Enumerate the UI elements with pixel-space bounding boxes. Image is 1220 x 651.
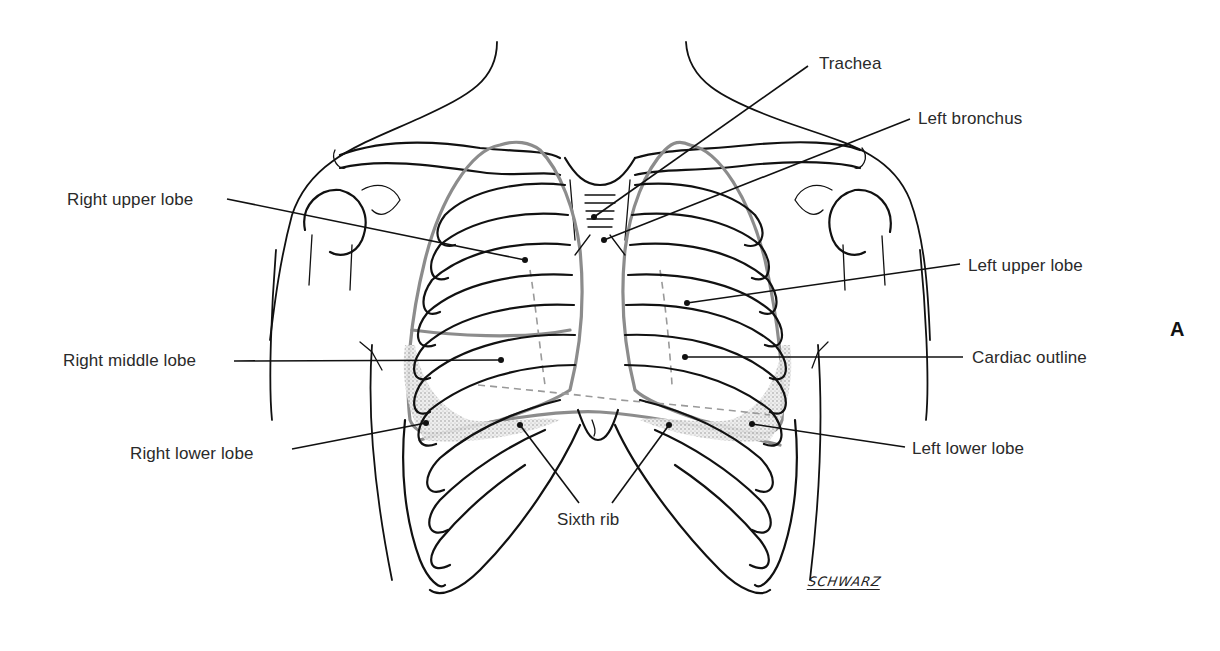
- shoulders: [304, 185, 891, 290]
- leader-right-middle-lobe: [234, 360, 501, 361]
- lung-outlines: [408, 142, 783, 445]
- trachea-rings: [575, 195, 625, 255]
- label-right-lower-lobe: Right lower lobe: [130, 445, 254, 462]
- label-right-middle-lobe: Right middle lobe: [63, 352, 196, 369]
- leader-sixth-rib-right: [520, 425, 579, 503]
- leader-left-upper-lobe: [687, 264, 960, 303]
- leader-right-upper-lobe: [227, 199, 525, 260]
- label-cardiac-outline: Cardiac outline: [972, 349, 1087, 366]
- artist-signature: SCHWARZ: [807, 575, 883, 590]
- label-left-upper-lobe: Left upper lobe: [968, 257, 1083, 274]
- chest-anatomy-figure: Trachea Left bronchus Right upper lobe L…: [0, 0, 1220, 651]
- leader-trachea: [594, 66, 808, 217]
- leader-lines: [227, 66, 963, 503]
- label-left-bronchus: Left bronchus: [918, 110, 1022, 127]
- leader-left-bronchus: [604, 119, 910, 240]
- panel-letter: A: [1170, 318, 1184, 341]
- chest-illustration: [0, 0, 1220, 651]
- leader-right-lower-lobe: [292, 423, 426, 449]
- label-sixth-rib: Sixth rib: [557, 511, 619, 528]
- label-trachea: Trachea: [819, 55, 881, 72]
- label-right-upper-lobe: Right upper lobe: [67, 191, 193, 208]
- label-left-lower-lobe: Left lower lobe: [912, 440, 1024, 457]
- body-outline: [270, 42, 930, 580]
- clavicles: [334, 142, 866, 175]
